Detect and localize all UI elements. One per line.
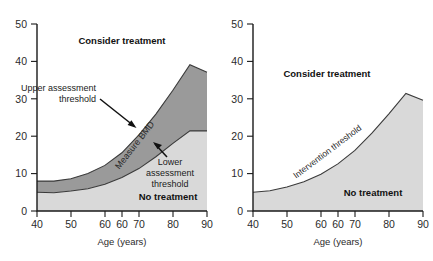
left-label-no-treatment: No treatment (139, 191, 198, 202)
chart-panel-right: 0 10 20 30 40 50 40 50 60 (217, 0, 433, 261)
right-label-no-treatment: No treatment (344, 187, 403, 198)
left-annot-lower-line3: threshold (151, 179, 188, 189)
left-y-tick-labels: 0 10 20 30 40 50 (15, 18, 27, 217)
right-y-ticks (247, 24, 253, 211)
left-x-axis-title: Age (years) (97, 236, 146, 247)
left-annot-lower-line1: Lower (158, 157, 183, 167)
left-ytick-30: 30 (15, 93, 27, 105)
right-ytick-20: 20 (231, 130, 243, 142)
left-xtick-90: 90 (201, 218, 213, 230)
right-xtick-40: 40 (247, 218, 259, 230)
left-xtick-40: 40 (31, 218, 43, 230)
right-x-tick-labels: 40 50 60 60 70 80 90 (247, 218, 429, 230)
left-ytick-40: 40 (15, 55, 27, 67)
right-label-consider-treatment: Consider treatment (283, 68, 371, 79)
left-plot-svg: 0 10 20 30 40 50 40 50 60 (0, 0, 217, 261)
left-xtick-70: 70 (133, 218, 145, 230)
right-xtick-60a: 60 (315, 218, 327, 230)
chart-panel-left: 0 10 20 30 40 50 40 50 60 (0, 0, 217, 261)
right-ytick-40: 40 (231, 55, 243, 67)
left-ytick-20: 20 (15, 130, 27, 142)
right-xtick-50: 50 (281, 218, 293, 230)
figure-osteoporosis-thresholds: 0 10 20 30 40 50 40 50 60 (0, 0, 433, 261)
left-annot-upper-line1: Upper assessment (21, 83, 97, 93)
right-x-axis-title: Age (years) (313, 236, 362, 247)
left-ytick-0: 0 (21, 205, 27, 217)
left-y-ticks (31, 24, 37, 211)
left-annot-upper-line2: threshold (59, 94, 96, 104)
left-xtick-80: 80 (167, 218, 179, 230)
right-xtick-60b: 60 (332, 218, 344, 230)
right-ytick-0: 0 (237, 205, 243, 217)
left-annot-lower-line2: assessment (146, 168, 195, 178)
left-label-consider-treatment: Consider treatment (78, 35, 166, 46)
left-x-ticks (37, 211, 207, 217)
right-x-ticks (253, 211, 423, 217)
left-xtick-50: 50 (65, 218, 77, 230)
right-xtick-70: 70 (349, 218, 361, 230)
right-y-tick-labels: 0 10 20 30 40 50 (231, 18, 243, 217)
right-xtick-80: 80 (383, 218, 395, 230)
right-ytick-50: 50 (231, 18, 243, 30)
left-ytick-50: 50 (15, 18, 27, 30)
left-x-tick-labels: 40 50 60 60 70 80 90 (31, 218, 213, 230)
right-ytick-30: 30 (231, 93, 243, 105)
right-ytick-10: 10 (231, 167, 243, 179)
right-xtick-90: 90 (417, 218, 429, 230)
left-arrow-upper-threshold (100, 99, 137, 128)
left-ytick-10: 10 (15, 167, 27, 179)
right-plot-svg: 0 10 20 30 40 50 40 50 60 (217, 0, 433, 261)
left-xtick-60b: 60 (116, 218, 128, 230)
left-xtick-60a: 60 (99, 218, 111, 230)
